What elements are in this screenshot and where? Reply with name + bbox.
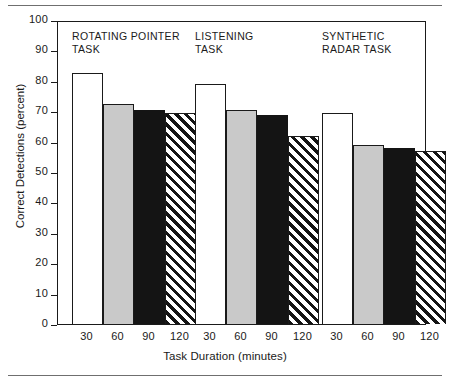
bars [72,22,196,324]
x-tick-label: 60 [111,330,124,342]
x-tick-label: 30 [80,330,93,342]
x-tick-label: 60 [361,330,374,342]
bars [322,22,446,324]
figure: 0102030405060708090100 Correct Detection… [0,0,450,384]
bar[interactable] [134,110,165,324]
bar-group: LISTENING TASK [195,22,319,324]
y-tick-label: 50 [35,166,48,177]
y-tick-mark [51,325,57,326]
y-axis-label: Correct Detections (percent) [14,56,26,256]
y-tick-label: 100 [29,14,48,25]
bar-group: SYNTHETIC RADAR TASK [322,22,446,324]
bar[interactable] [353,145,384,324]
bars [195,22,319,324]
bar-group: ROTATING POINTER TASK [72,22,196,324]
bar[interactable] [72,73,103,324]
y-axis: 0102030405060708090100 [0,21,57,326]
x-tick-label: 30 [203,330,216,342]
x-tick-label: 90 [392,330,405,342]
bar[interactable] [103,104,134,324]
bar[interactable] [257,115,288,324]
x-axis-label: Task Duration (minutes) [0,350,450,362]
top-rule [8,5,442,6]
x-tick-label: 60 [234,330,247,342]
y-tick-label: 40 [35,196,48,207]
y-tick-label: 30 [35,227,48,238]
y-tick-label: 0 [42,318,48,329]
bar[interactable] [322,113,353,324]
bar[interactable] [165,113,196,324]
y-tick-label: 10 [35,288,48,299]
y-tick-label: 20 [35,257,48,268]
y-tick-label: 60 [35,136,48,147]
x-tick-label: 90 [265,330,278,342]
bar[interactable] [384,148,415,324]
bar[interactable] [226,110,257,324]
x-tick-label: 120 [293,330,312,342]
y-tick-label: 90 [35,44,48,55]
bar[interactable] [288,136,319,324]
plot-area: ROTATING POINTER TASKLISTENING TASKSYNTH… [57,21,426,325]
bar[interactable] [415,151,446,324]
x-tick-label: 30 [330,330,343,342]
x-tick-label: 90 [142,330,155,342]
y-tick-label: 80 [35,75,48,86]
x-tick-labels: 306090120306090120306090120 [57,330,426,346]
bottom-rule [8,375,442,376]
x-tick-label: 120 [420,330,439,342]
x-tick-label: 120 [170,330,189,342]
bar[interactable] [195,84,226,324]
y-tick-label: 70 [35,105,48,116]
